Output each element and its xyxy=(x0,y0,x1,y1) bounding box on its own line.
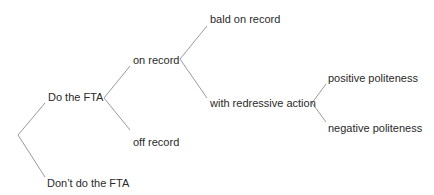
edge-do-fta-branches xyxy=(104,66,130,130)
node-on-record: on record xyxy=(133,54,179,67)
edge-root-branches xyxy=(18,103,45,177)
node-with-redressive-action: with redressive action xyxy=(210,97,316,110)
node-negative-politeness: negative politeness xyxy=(328,122,422,135)
node-positive-politeness: positive politeness xyxy=(328,72,418,85)
node-dont-do-the-fta: Don’t do the FTA xyxy=(47,177,129,190)
politeness-strategy-tree: Do the FTA Don’t do the FTA on record of… xyxy=(0,0,434,195)
node-bald-on-record: bald on record xyxy=(210,13,280,26)
node-off-record: off record xyxy=(133,136,179,149)
edge-on-record-branches xyxy=(180,26,207,98)
node-do-the-fta: Do the FTA xyxy=(48,91,103,104)
